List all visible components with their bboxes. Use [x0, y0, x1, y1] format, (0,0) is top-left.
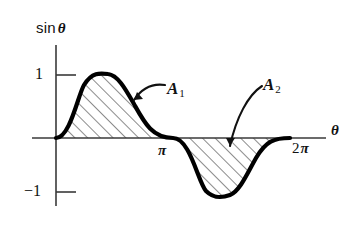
- pi-icon: π: [300, 140, 309, 156]
- area-label-a2-subscript: 2: [274, 83, 281, 95]
- area-label-a2-letter: A: [263, 75, 274, 94]
- area-label-a1-subscript: 1: [178, 87, 185, 99]
- y-tick-label-negative-one: −1: [24, 183, 41, 199]
- area-label-a1-letter: A: [167, 79, 178, 98]
- x-tick-label-two-pi-number: 2: [292, 140, 300, 156]
- x-tick-label-two-pi: 2π: [292, 141, 309, 156]
- y-axis-label: sinθ: [36, 20, 66, 36]
- theta-icon: θ: [56, 20, 66, 36]
- sine-curve-figure: sinθ θ 1 −1 π 2π A1 A2: [0, 0, 359, 234]
- leader-a1: [134, 85, 165, 100]
- leader-a2: [226, 86, 262, 146]
- x-tick-label-pi: π: [158, 143, 166, 158]
- area-label-a2: A2: [263, 76, 281, 95]
- x-axis-label: θ: [331, 123, 339, 138]
- y-axis-label-text: sin: [36, 19, 56, 36]
- area-label-a1: A1: [167, 80, 185, 99]
- hatched-area-a1: [50, 60, 185, 145]
- y-tick-label-positive-one: 1: [35, 66, 43, 82]
